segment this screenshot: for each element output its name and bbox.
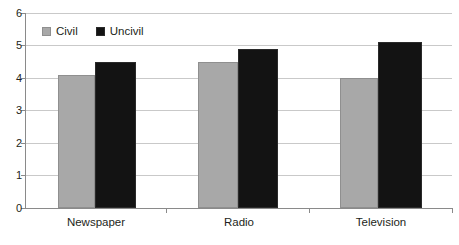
bar-radio-uncivil <box>238 49 278 208</box>
y-tick-label-4: 4 <box>4 73 22 84</box>
x-category-label-radio: Radio <box>224 216 254 230</box>
x-tick-mark-3 <box>452 208 453 213</box>
legend-swatch-civil-icon <box>42 27 51 36</box>
y-tick-label-0: 0 <box>4 203 22 214</box>
bar-television-uncivil <box>378 42 422 208</box>
legend: Civil Uncivil <box>42 26 144 38</box>
y-tick-label-2: 2 <box>4 138 22 149</box>
x-category-label-television: Television <box>356 216 407 230</box>
legend-label-uncivil: Uncivil <box>110 26 144 38</box>
legend-label-civil: Civil <box>56 26 78 38</box>
y-tick-label-6: 6 <box>4 8 22 19</box>
legend-entry-uncivil: Uncivil <box>96 26 144 38</box>
legend-swatch-uncivil-icon <box>96 27 105 36</box>
y-tick-label-1: 1 <box>4 170 22 181</box>
bar-radio-civil <box>198 62 238 208</box>
bar-newspaper-uncivil <box>95 62 136 208</box>
x-tick-mark-1 <box>166 208 167 213</box>
y-axis-tick-labels: 6 5 4 3 2 1 0 <box>0 0 22 245</box>
gridline-6 <box>25 13 452 14</box>
bar-television-civil <box>340 78 378 208</box>
x-axis-line <box>25 208 452 209</box>
y-tick-label-5: 5 <box>4 40 22 51</box>
bar-newspaper-civil <box>58 75 95 208</box>
legend-entry-civil: Civil <box>42 26 78 38</box>
y-tick-label-3: 3 <box>4 105 22 116</box>
x-category-label-newspaper: Newspaper <box>67 216 125 230</box>
bar-chart: 6 5 4 3 2 1 0 Newspaper Radio Television… <box>0 0 459 245</box>
x-tick-mark-2 <box>309 208 310 213</box>
y-axis-line <box>25 13 26 209</box>
